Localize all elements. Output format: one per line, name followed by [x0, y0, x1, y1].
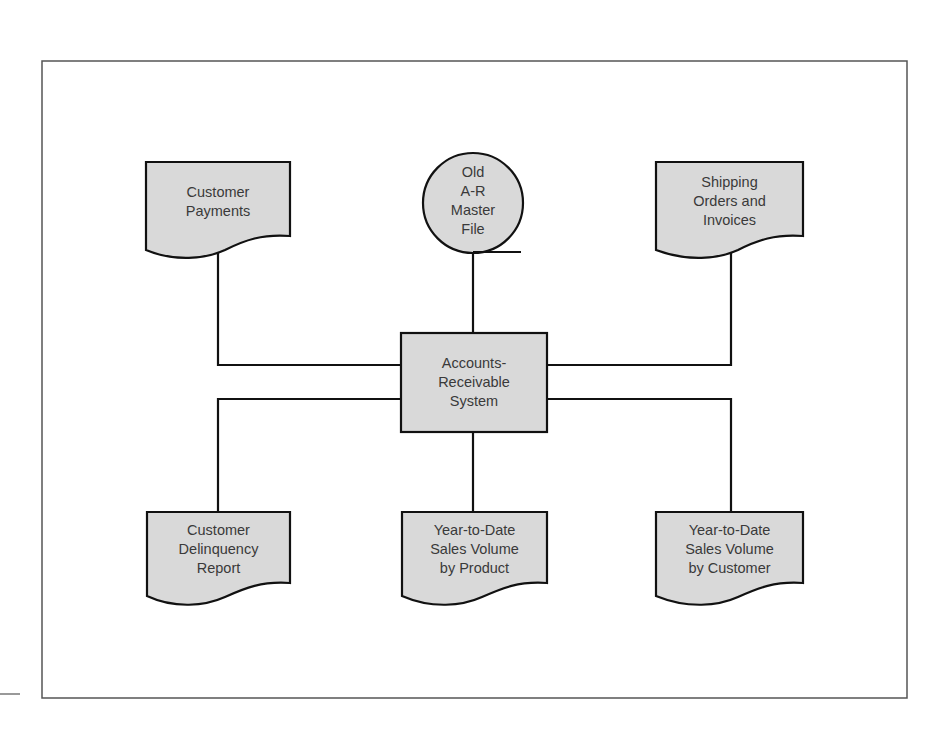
connector-customer-delinquency — [218, 399, 401, 512]
label-line: by Product — [402, 559, 547, 578]
label-line: Report — [147, 559, 290, 578]
label-accounts-receivable: Accounts- Receivable System — [401, 354, 547, 411]
connector-customer-payments — [218, 245, 401, 365]
label-line: Orders and — [656, 192, 803, 211]
label-shipping-orders: Shipping Orders and Invoices — [656, 173, 803, 230]
label-line: Accounts- — [401, 354, 547, 373]
label-line: Sales Volume — [656, 540, 803, 559]
label-ytd-by-product: Year-to-Date Sales Volume by Product — [402, 521, 547, 578]
label-ytd-by-customer: Year-to-Date Sales Volume by Customer — [656, 521, 803, 578]
label-line: Year-to-Date — [402, 521, 547, 540]
label-customer-delinquency: Customer Delinquency Report — [147, 521, 290, 578]
label-line: Shipping — [656, 173, 803, 192]
label-line: File — [423, 220, 523, 239]
connector-ytd-by-customer — [547, 399, 731, 512]
label-line: Year-to-Date — [656, 521, 803, 540]
label-line: A-R — [423, 182, 523, 201]
label-line: by Customer — [656, 559, 803, 578]
connector-shipping-orders — [547, 245, 731, 365]
label-line: Master — [423, 201, 523, 220]
label-old-ar-master-file: Old A-R Master File — [423, 163, 523, 239]
label-line: Old — [423, 163, 523, 182]
label-line: Invoices — [656, 211, 803, 230]
label-line: Delinquency — [147, 540, 290, 559]
label-line: Customer — [146, 183, 290, 202]
label-line: System — [401, 392, 547, 411]
label-line: Payments — [146, 202, 290, 221]
label-line: Customer — [147, 521, 290, 540]
label-line: Receivable — [401, 373, 547, 392]
label-line: Sales Volume — [402, 540, 547, 559]
label-customer-payments: Customer Payments — [146, 183, 290, 221]
